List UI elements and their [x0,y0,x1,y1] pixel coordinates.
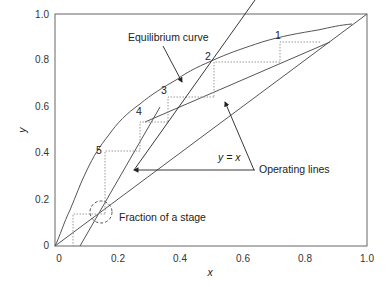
svg-text:0.8: 0.8 [298,253,312,264]
mccabe-thiele-diagram: 0 0.2 0.4 0.6 0.8 1.0 0 0.2 0.4 0.6 0.8 … [0,0,391,287]
x-axis-ticks: 0 0.2 0.4 0.6 0.8 1.0 [56,253,374,264]
svg-text:0.4: 0.4 [173,253,187,264]
stage-5-label: 5 [96,144,102,156]
diagonal-label: y = x [217,151,241,163]
svg-text:0.4: 0.4 [35,147,49,158]
x-axis-label: x [206,266,213,278]
stage-1-label: 1 [275,29,281,41]
svg-text:0.2: 0.2 [35,194,49,205]
operating-lines-label: Operating lines [259,163,330,175]
diagonal-line [55,14,367,246]
svg-text:1.0: 1.0 [35,9,49,20]
svg-text:0: 0 [43,240,49,251]
stage-4-label: 4 [136,105,142,117]
svg-text:1.0: 1.0 [360,253,374,264]
stage-3-label: 3 [161,84,167,96]
svg-text:0.2: 0.2 [111,253,125,264]
svg-text:0: 0 [56,253,62,264]
fraction-stage-label: Fraction of a stage [119,211,206,223]
y-axis-ticks: 0 0.2 0.4 0.6 0.8 1.0 [35,9,49,251]
stage-2-label: 2 [205,50,211,62]
equilibrium-curve-arrow [163,46,182,82]
svg-text:0.6: 0.6 [236,253,250,264]
svg-text:0.8: 0.8 [35,54,49,65]
equilibrium-curve-label: Equilibrium curve [128,31,209,43]
y-axis-label: y [16,127,28,134]
svg-text:0.6: 0.6 [35,101,49,112]
